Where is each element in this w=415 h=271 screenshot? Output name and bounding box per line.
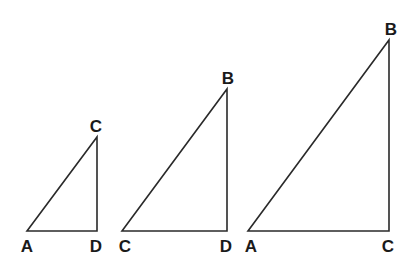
similar-triangles-diagram: C A D B C D B A C bbox=[0, 0, 415, 271]
vertex-label-d: D bbox=[90, 237, 102, 256]
triangle-small-ACD: C A D bbox=[21, 117, 102, 256]
vertex-label-c: C bbox=[90, 117, 102, 136]
triangle-outline bbox=[248, 40, 389, 231]
vertex-label-b: B bbox=[222, 69, 234, 88]
vertex-label-a: A bbox=[245, 237, 257, 256]
vertex-label-a: A bbox=[21, 237, 33, 256]
triangle-medium-BCD: B C D bbox=[119, 69, 234, 256]
vertex-label-d: D bbox=[220, 237, 232, 256]
vertex-label-b: B bbox=[385, 20, 397, 39]
triangle-outline bbox=[27, 137, 97, 231]
triangle-large-ABC: B A C bbox=[245, 20, 397, 256]
vertex-label-c: C bbox=[119, 237, 131, 256]
triangle-outline bbox=[122, 89, 227, 231]
vertex-label-c: C bbox=[382, 237, 394, 256]
